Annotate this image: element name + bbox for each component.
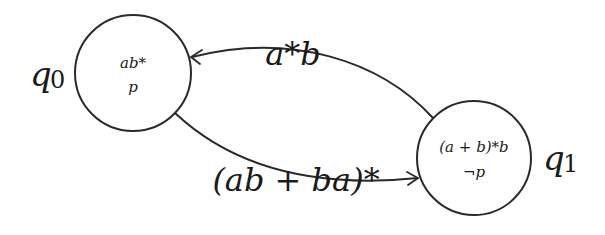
state-q1-name-sub: 1 [563,150,578,178]
state-q0-name-sub: 0 [50,66,65,94]
automaton-diagram: ab* p q 0 (a + b)*b ¬p q 1 a*b (ab + ba)… [0,0,605,235]
state-q1-circle [417,101,531,215]
transition-q0-q1-label: (ab + ba)* [212,161,379,199]
state-q0-circle [75,15,191,131]
state-q1-name-base: q [543,138,565,178]
transition-q1-q0-arrowhead [191,50,202,64]
transition-q1-q0-label: a*b [265,35,321,73]
state-q1: (a + b)*b ¬p [417,101,531,215]
state-q1-proposition: ¬p [463,163,486,181]
transition-q0-q1: (ab + ba)* [175,113,418,199]
state-q1-expression: (a + b)*b [439,138,508,156]
state-q1-label: q 1 [543,138,578,178]
state-q0-expression: ab* [120,54,147,72]
state-q0-label: q 0 [30,54,65,94]
state-q0-name-base: q [30,54,52,94]
transition-q1-q0: a*b [191,35,433,118]
state-q0-proposition: p [128,78,138,96]
state-q0: ab* p [75,15,191,131]
